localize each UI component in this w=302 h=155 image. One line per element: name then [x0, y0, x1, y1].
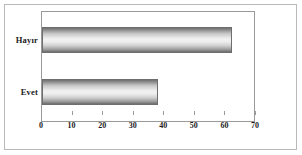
x-tick-label-30: 30	[118, 121, 148, 130]
x-tick-mark-60	[224, 111, 225, 115]
x-tick-mark-20	[102, 111, 103, 115]
x-tick-mark-70	[255, 111, 256, 115]
x-tick-label-60: 60	[209, 121, 239, 130]
bar-evet	[42, 79, 158, 105]
x-tick-mark-30	[133, 111, 134, 115]
category-label-evet: Evet	[0, 87, 38, 97]
plot-area	[41, 11, 255, 122]
bar-hayir	[42, 27, 232, 53]
x-tick-label-20: 20	[87, 121, 117, 130]
x-tick-label-70: 70	[240, 121, 270, 130]
x-tick-label-50: 50	[179, 121, 209, 130]
x-tick-mark-40	[163, 111, 164, 115]
x-tick-mark-10	[72, 111, 73, 115]
x-tick-label-10: 10	[57, 121, 87, 130]
x-tick-label-0: 0	[26, 121, 56, 130]
x-tick-mark-0	[41, 111, 42, 115]
category-label-hayir: Hayır	[0, 35, 38, 45]
bar-chart-figure: Hayır Evet 010203040506070	[0, 0, 302, 155]
x-tick-label-40: 40	[148, 121, 178, 130]
x-tick-mark-50	[194, 111, 195, 115]
